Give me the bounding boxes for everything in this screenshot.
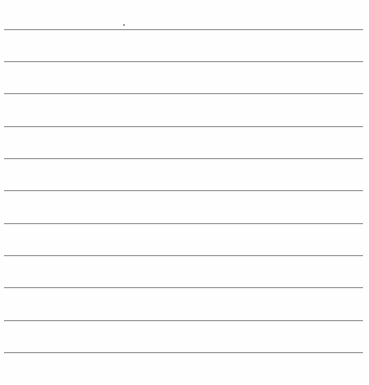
ink-speck (123, 24, 125, 26)
lined-paper-page (0, 0, 369, 385)
ruled-line (4, 352, 363, 353)
ruled-line (4, 126, 363, 127)
ruled-line (4, 255, 363, 256)
ruled-line (4, 190, 363, 191)
ruled-line (4, 287, 363, 288)
ruled-line (4, 223, 363, 224)
ruled-line (4, 29, 363, 30)
ruled-line (4, 320, 363, 321)
ruled-line (4, 93, 363, 94)
ruled-line (4, 61, 363, 62)
ruled-line (4, 158, 363, 159)
